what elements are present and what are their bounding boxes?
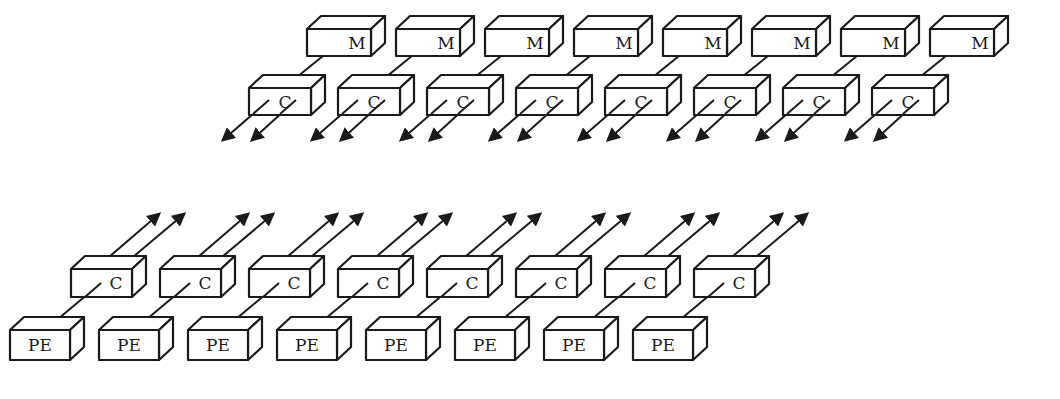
- memory-module-box-label: M: [971, 33, 988, 53]
- memory-module-box-label: M: [437, 33, 454, 53]
- c-input-arrow: [756, 214, 807, 257]
- processor-connector-box-label: C: [643, 273, 656, 293]
- c-input-arrow: [287, 214, 337, 257]
- processor-connector-box-label: C: [554, 273, 567, 293]
- processor-connector-box-label: C: [376, 273, 389, 293]
- processing-element-box-label: PE: [295, 335, 319, 355]
- memory-module-box-label: M: [526, 33, 543, 53]
- processing-element-box: PE: [633, 317, 707, 360]
- processor-connector-box: C: [160, 256, 235, 297]
- c-input-arrow: [643, 214, 693, 257]
- processing-element-box-label: PE: [473, 335, 497, 355]
- c-input-arrow: [667, 214, 718, 257]
- processing-element-box: PE: [544, 317, 618, 360]
- processor-connector-box-label: C: [732, 273, 745, 293]
- processor-connector-box: C: [516, 256, 591, 297]
- processor-connector-box: C: [338, 256, 413, 297]
- memory-module-box-label: M: [882, 33, 899, 53]
- processing-element-box-label: PE: [28, 335, 52, 355]
- processor-connector-box: C: [694, 256, 769, 297]
- memory-module-box-label: M: [793, 33, 810, 53]
- diagram-canvas: MCMCMCMCMCMCMCMCCPECPECPECPECPECPECPECPE: [0, 0, 1060, 399]
- memory-module-box: M: [396, 16, 474, 56]
- processing-element-box: PE: [366, 317, 440, 360]
- memory-module-box: M: [485, 16, 563, 56]
- memory-module-box: M: [663, 16, 741, 56]
- c-input-arrow: [489, 214, 540, 257]
- memory-module-box: M: [752, 16, 830, 56]
- memory-module-box-label: M: [348, 33, 365, 53]
- memory-module-box: M: [930, 16, 1008, 56]
- processor-connector-box-label: C: [198, 273, 211, 293]
- processing-element-box: PE: [277, 317, 351, 360]
- c-input-arrow: [198, 214, 248, 257]
- processing-element-box: PE: [99, 317, 173, 360]
- processor-connector-box-label: C: [287, 273, 300, 293]
- memory-module-box: M: [307, 16, 385, 56]
- processing-element-box-label: PE: [384, 335, 408, 355]
- processing-element-box: PE: [10, 317, 84, 360]
- processing-element-box-label: PE: [206, 335, 230, 355]
- processor-connector-box: C: [605, 256, 680, 297]
- processor-connector-box-label: C: [465, 273, 478, 293]
- memory-module-box: M: [574, 16, 652, 56]
- memory-module-box-label: M: [615, 33, 632, 53]
- processor-connector-box: C: [427, 256, 502, 297]
- processing-element-box: PE: [188, 317, 262, 360]
- c-input-arrow: [109, 214, 159, 257]
- c-input-arrow: [222, 214, 273, 257]
- c-input-arrow: [133, 214, 184, 257]
- c-input-arrow: [465, 214, 515, 257]
- processing-element-box-label: PE: [117, 335, 141, 355]
- c-input-arrow: [578, 214, 629, 257]
- c-input-arrow: [311, 214, 362, 257]
- c-input-arrow: [376, 214, 426, 257]
- processor-connector-box-label: C: [109, 273, 122, 293]
- processing-element-box-label: PE: [651, 335, 675, 355]
- processor-connector-box: C: [249, 256, 324, 297]
- processor-connector-box: C: [71, 256, 146, 297]
- memory-module-box: M: [841, 16, 919, 56]
- c-input-arrow: [732, 214, 782, 257]
- c-input-arrow: [400, 214, 451, 257]
- processing-element-box: PE: [455, 317, 529, 360]
- c-input-arrow: [554, 214, 604, 257]
- processing-element-box-label: PE: [562, 335, 586, 355]
- memory-module-box-label: M: [704, 33, 721, 53]
